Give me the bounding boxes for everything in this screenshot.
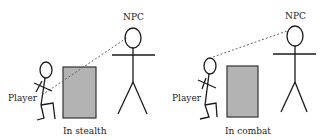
player-label: Player <box>172 93 202 103</box>
scene-caption: In combat <box>225 126 271 136</box>
player-label: Player <box>8 93 38 103</box>
cover-box <box>63 67 96 118</box>
sight-line <box>213 31 287 57</box>
npc-figure <box>273 26 316 112</box>
scene-caption: In stealth <box>63 126 107 136</box>
player-figure <box>198 58 217 119</box>
scene-stealth: NPC Player In stealth <box>8 12 155 136</box>
npc-label: NPC <box>123 12 144 22</box>
cover-box <box>227 66 258 117</box>
scene-combat: NPC Player In combat <box>172 11 316 136</box>
npc-figure <box>112 28 155 114</box>
stealth-combat-diagram: NPC Player In stealth NPC Player In comb… <box>0 0 325 140</box>
npc-label: NPC <box>285 11 306 21</box>
player-figure <box>34 62 55 120</box>
